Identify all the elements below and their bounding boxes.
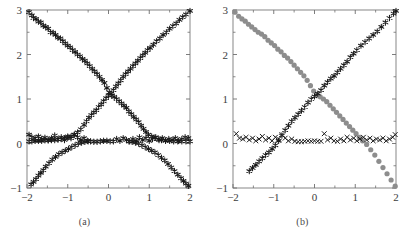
data-point [172, 168, 177, 173]
data-point [354, 47, 359, 52]
x-tick-label: −1 [62, 191, 74, 203]
series-ascending-branch-stars [247, 8, 399, 174]
data-point [149, 148, 154, 153]
data-point [102, 80, 107, 85]
x-tick-label: −2 [21, 191, 33, 203]
data-point [384, 171, 389, 176]
panel-b: −2−1012−10123 (b) [206, 0, 411, 231]
data-point [63, 148, 68, 153]
y-tick-label: 1 [17, 93, 23, 105]
data-point [302, 104, 307, 109]
scatter-plot-b: −2−1012−10123 [206, 0, 411, 205]
y-tick-label: 2 [17, 49, 23, 61]
data-point [379, 24, 384, 29]
data-point [232, 10, 237, 15]
data-point [393, 184, 398, 189]
x-tick-label: −2 [227, 191, 239, 203]
y-tick-label: 0 [17, 138, 23, 150]
data-point [234, 131, 239, 136]
data-point [322, 131, 327, 136]
y-tick-label: 3 [17, 4, 23, 16]
data-point [335, 70, 340, 75]
figure-container: −2−1012−10123 (a) −2−1012−10123 (b) [0, 0, 411, 231]
data-point [325, 79, 330, 84]
data-point [293, 115, 298, 120]
data-point [322, 83, 327, 88]
series-flat-branch-crosses [234, 131, 398, 144]
panel-a: −2−1012−10123 (a) [0, 0, 205, 231]
data-point [283, 127, 288, 132]
panel-b-caption: (b) [200, 216, 405, 227]
data-point [389, 177, 394, 182]
data-point [139, 143, 144, 148]
x-tick-label: 1 [147, 191, 153, 203]
data-point [372, 152, 377, 157]
y-tick-label: 2 [223, 49, 229, 61]
y-tick-label: 0 [223, 138, 229, 150]
data-point [69, 144, 74, 149]
x-tick-label: 0 [106, 191, 112, 203]
data-point [66, 146, 71, 151]
data-point [143, 144, 148, 149]
data-point [104, 85, 109, 90]
series-ascending-branch [27, 8, 193, 144]
data-point [319, 87, 324, 92]
x-tick-label: 2 [187, 191, 193, 203]
data-point [380, 165, 385, 170]
scatter-plot-a: −2−1012−10123 [0, 0, 205, 205]
data-point [175, 172, 180, 177]
data-point [169, 165, 174, 170]
data-point [348, 54, 353, 59]
data-point [60, 150, 65, 155]
y-tick-label: −1 [10, 182, 22, 194]
x-tick-label: 2 [393, 191, 399, 203]
data-point [289, 119, 294, 124]
data-point [286, 123, 291, 128]
data-point [146, 146, 151, 151]
data-point [383, 20, 388, 25]
data-point [273, 143, 278, 148]
y-tick-label: 1 [223, 93, 229, 105]
data-point [351, 51, 356, 56]
x-tick-label: 1 [353, 191, 359, 203]
data-point [341, 62, 346, 67]
panel-a-caption: (a) [0, 216, 187, 227]
data-point [270, 146, 275, 151]
data-point [299, 108, 304, 113]
data-point [166, 161, 171, 166]
data-point [319, 139, 324, 144]
series-lower-left-branch [29, 139, 91, 188]
data-point [305, 78, 310, 83]
data-point [301, 73, 306, 78]
data-point [376, 159, 381, 164]
series-lower-right-branch [126, 139, 190, 189]
data-point [338, 66, 343, 71]
x-tick-label: −1 [268, 191, 280, 203]
data-point [73, 143, 78, 148]
data-point [308, 83, 313, 88]
data-point [306, 100, 311, 105]
data-point [43, 164, 48, 169]
data-point [296, 111, 301, 116]
y-tick-label: 3 [223, 4, 229, 16]
data-point [364, 142, 369, 147]
y-tick-label: −1 [216, 182, 228, 194]
x-tick-label: 0 [312, 191, 318, 203]
data-point [47, 160, 52, 165]
data-point [387, 15, 392, 20]
data-point [345, 59, 350, 64]
data-point [179, 136, 184, 141]
data-point [368, 147, 373, 152]
data-point [393, 132, 398, 137]
